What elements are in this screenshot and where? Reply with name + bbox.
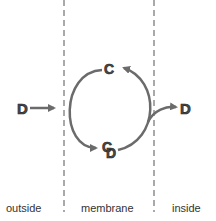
cycle-left-arc xyxy=(70,70,102,148)
c-top-label: C xyxy=(104,61,114,77)
d-inside-label: D xyxy=(180,100,191,117)
region-label-inside: inside xyxy=(172,202,201,214)
release-arrow xyxy=(148,107,176,122)
d-bound-label: D xyxy=(106,145,116,161)
cycle-right-arc xyxy=(118,68,150,150)
region-label-outside: outside xyxy=(6,202,41,214)
d-outside-label: D xyxy=(17,100,28,117)
membrane-transport-diagram: D C C D D xyxy=(0,0,216,221)
region-label-membrane: membrane xyxy=(81,202,134,214)
